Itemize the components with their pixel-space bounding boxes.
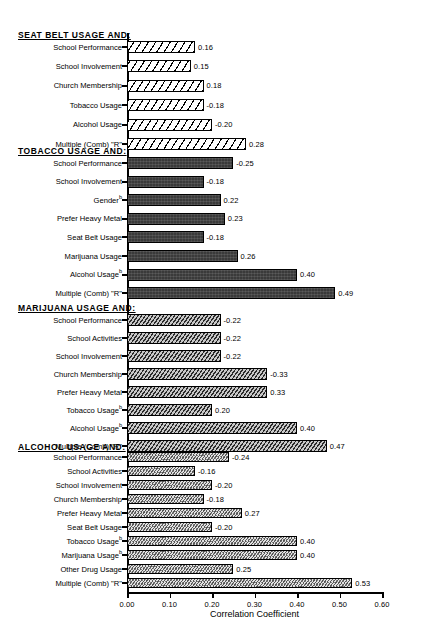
bar-value-label: 0.16 — [198, 43, 213, 52]
bar-value-label: -0.18 — [207, 101, 225, 110]
category-label: School Performance — [0, 159, 125, 168]
bar-value-label: 0.22 — [224, 196, 239, 205]
bar-value-label: -0.20 — [215, 523, 233, 532]
footnote-marker: b — [119, 194, 122, 200]
bar — [127, 440, 327, 452]
footnote-marker: b — [119, 535, 122, 541]
category-label: Tobacco Usageb — [0, 537, 125, 546]
bar-value-label: 0.25 — [236, 565, 251, 574]
bar — [127, 231, 204, 243]
bar — [127, 250, 238, 262]
bar — [127, 466, 195, 476]
bar-value-label: -0.20 — [215, 120, 233, 129]
category-label: Genderb — [0, 196, 125, 205]
bar-value-label: -0.18 — [207, 177, 225, 186]
category-label: Alcohol Usage — [0, 120, 125, 129]
x-axis-tick-label: 0.50 — [332, 600, 347, 609]
bar — [127, 404, 212, 416]
footnote-marker: b — [119, 269, 122, 275]
bar — [127, 578, 352, 588]
footnote-marker: b — [119, 549, 122, 555]
category-label: Seat Belt Usage — [0, 233, 125, 242]
footnote-marker: b — [119, 404, 122, 410]
x-axis-tick — [127, 592, 129, 598]
bar-value-label: 0.20 — [215, 406, 230, 415]
bar-value-label: 0.53 — [355, 579, 370, 588]
group-header: ALCOHOL USAGE AND: — [18, 442, 126, 452]
x-axis-title: Correlation Coefficient — [127, 609, 382, 619]
category-label: Multiple (Comb) "R" — [0, 289, 125, 298]
bar — [127, 536, 297, 546]
correlation-bar-chart: SEAT BELT USAGE AND:School Performance0.… — [0, 0, 427, 636]
category-label: Marijuana Usage — [0, 252, 125, 261]
category-label: School Activities — [0, 467, 125, 476]
x-axis-tick — [297, 592, 299, 598]
bar — [127, 550, 297, 560]
bar-value-label: 0.40 — [300, 270, 315, 279]
bar-value-label: 0.23 — [228, 214, 243, 223]
category-label: School Performance — [0, 453, 125, 462]
bar-value-label: 0.27 — [245, 509, 260, 518]
x-axis-tick — [170, 592, 172, 598]
group-header: SEAT BELT USAGE AND: — [18, 30, 131, 40]
bar — [127, 119, 212, 131]
bar — [127, 494, 204, 504]
bar — [127, 480, 212, 490]
bar — [127, 287, 335, 299]
group-header: TOBACCO USAGE AND: — [18, 146, 127, 156]
x-axis-tick — [212, 592, 214, 598]
category-label: School Activities — [0, 334, 125, 343]
group-header: MARIJUANA USAGE AND: — [18, 303, 136, 313]
bar — [127, 332, 221, 344]
bar — [127, 314, 221, 326]
category-label: Prefer Heavy Metal — [0, 214, 125, 223]
bar-value-label: -0.25 — [236, 159, 254, 168]
bar-value-label: -0.33 — [270, 370, 288, 379]
bar — [127, 564, 233, 574]
category-label: Other Drug Usage — [0, 565, 125, 574]
bar — [127, 41, 195, 53]
x-axis-tick-label: 0.60 — [375, 600, 390, 609]
category-label: Tobacco Usage — [0, 101, 125, 110]
x-axis-tick-label: 0.20 — [205, 600, 220, 609]
bar-value-label: -0.24 — [232, 453, 250, 462]
bar — [127, 368, 267, 380]
x-axis-tick — [340, 592, 342, 598]
category-label: School Performance — [0, 316, 125, 325]
bar — [127, 99, 204, 111]
bar — [127, 269, 297, 281]
bar — [127, 80, 204, 92]
bar — [127, 350, 221, 362]
bar — [127, 522, 212, 532]
x-axis-tick — [382, 592, 384, 598]
category-label: Alcohol Usageb — [0, 424, 125, 433]
category-label: Tobacco Usageb — [0, 406, 125, 415]
bar-value-label: 0.40 — [300, 551, 315, 560]
bar-value-label: 0.40 — [300, 424, 315, 433]
bar-value-label: 0.47 — [330, 442, 345, 451]
bar-value-label: -0.22 — [224, 316, 242, 325]
category-label: Prefer Heavy Metal — [0, 388, 125, 397]
bar — [127, 213, 225, 225]
bar-value-label: 0.15 — [194, 62, 209, 71]
bar — [127, 138, 246, 150]
category-label: School Involvement — [0, 352, 125, 361]
category-label: Church Membership — [0, 370, 125, 379]
x-axis-tick-label: 0.10 — [162, 600, 177, 609]
bar-value-label: -0.18 — [207, 233, 225, 242]
category-label: School Involvement — [0, 481, 125, 490]
bar — [127, 508, 242, 518]
bar — [127, 176, 204, 188]
bar — [127, 157, 233, 169]
category-label: Marijuana Usageb — [0, 551, 125, 560]
bar-value-label: 0.18 — [207, 81, 222, 90]
bar-value-label: 0.49 — [338, 289, 353, 298]
bar — [127, 194, 221, 206]
bar-value-label: -0.18 — [207, 495, 225, 504]
bar — [127, 60, 191, 72]
bar-value-label: -0.22 — [224, 334, 242, 343]
category-label: Alcohol Usageb — [0, 270, 125, 279]
category-label: Prefer Heavy Metal — [0, 509, 125, 518]
category-label: Church Membership — [0, 495, 125, 504]
bar-value-label: -0.22 — [224, 352, 242, 361]
